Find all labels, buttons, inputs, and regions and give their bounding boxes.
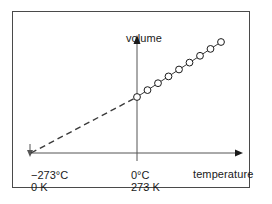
data-point (218, 39, 225, 46)
data-point (134, 94, 141, 101)
data-point (165, 73, 172, 80)
x-axis-title: temperature (193, 168, 253, 180)
data-point-series (134, 39, 225, 101)
figure-frame: volume temperature −273°C 0 K 0°C 273 K (12, 11, 250, 188)
tick-label-freezing-point-kelvin: 273 K (131, 181, 160, 193)
data-point (176, 66, 183, 73)
data-point (155, 80, 162, 87)
tick-label-absolute-zero-kelvin: 0 K (31, 181, 68, 193)
right-arrow-icon (235, 150, 243, 157)
figure-root: volume temperature −273°C 0 K 0°C 273 K (0, 0, 272, 204)
extrapolation-dashed-line (31, 97, 137, 153)
tick-label-freezing-point-celsius: 0°C (131, 169, 160, 181)
tick-label-freezing-point: 0°C 273 K (131, 169, 160, 193)
data-point (197, 52, 204, 59)
tick-label-absolute-zero-celsius: −273°C (31, 169, 68, 181)
tick-label-absolute-zero: −273°C 0 K (31, 169, 68, 193)
data-point (207, 46, 214, 53)
data-point (186, 59, 193, 66)
data-point (144, 87, 151, 94)
y-axis-title: volume (126, 32, 162, 44)
